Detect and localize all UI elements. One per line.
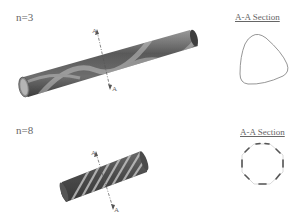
cut-marker-bottom-n3: A xyxy=(112,85,117,93)
cross-section-n3 xyxy=(240,34,288,84)
cut-marker-top-n3: A xyxy=(92,27,97,35)
cut-marker-bottom-n8: A xyxy=(114,206,119,214)
twisted-tube-n8 xyxy=(58,150,150,202)
diagram-canvas: A A A A xyxy=(0,0,308,221)
cut-marker-top-n8: A xyxy=(91,149,96,157)
twisted-tube-n3 xyxy=(17,29,200,98)
cross-section-n8 xyxy=(242,144,283,185)
